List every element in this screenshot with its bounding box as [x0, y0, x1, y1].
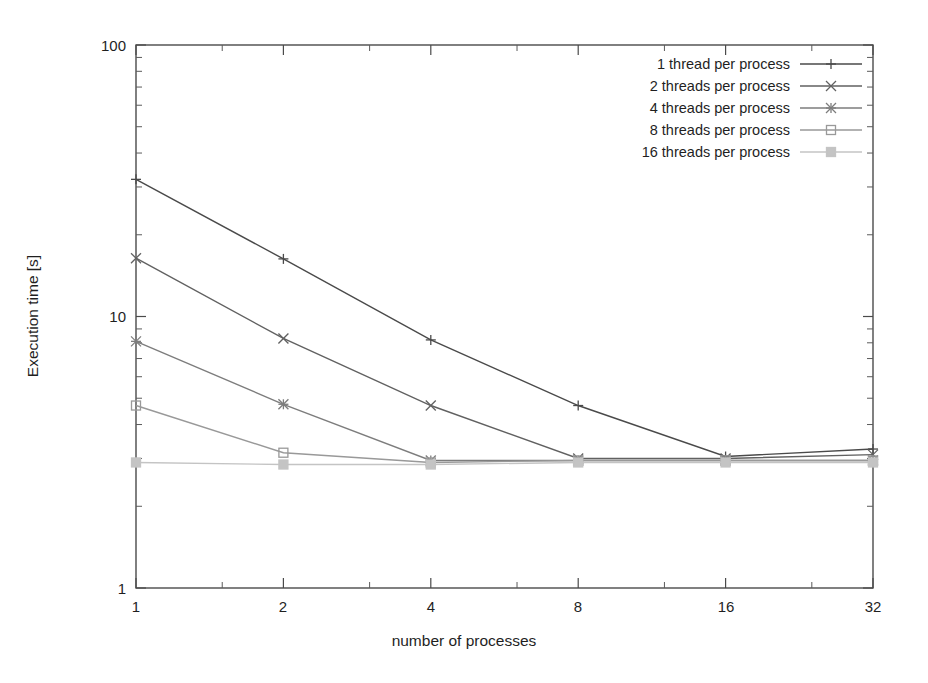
x-tick-label-2: 2 [279, 598, 287, 615]
y-tick-label-10: 10 [109, 308, 126, 325]
legend: 1 thread per process2 threads per proces… [642, 56, 862, 160]
data-point-0-1 [278, 254, 288, 264]
series-2 [131, 336, 878, 465]
data-point-4-1 [279, 460, 288, 469]
series-1 [131, 253, 878, 463]
legend-marker-2 [826, 103, 836, 113]
legend-marker-4 [827, 148, 836, 157]
data-point-4-4 [721, 458, 730, 467]
data-point-1-1 [278, 333, 288, 343]
data-point-4-3 [574, 458, 583, 467]
x-tick-label-1: 1 [132, 598, 140, 615]
legend-marker-0 [826, 59, 836, 69]
x-axis-title: number of processes [392, 632, 537, 649]
line-chart: 100 10 1 1 2 4 8 16 32 number of process… [0, 0, 928, 683]
x-tick-label-4: 4 [427, 598, 435, 615]
data-point-4-2 [426, 460, 435, 469]
series-0 [131, 174, 878, 461]
series-4 [132, 458, 878, 469]
legend-label-2: 4 threads per process [650, 100, 790, 116]
x-tick-label-32: 32 [865, 598, 882, 615]
chart-figure: 100 10 1 1 2 4 8 16 32 number of process… [0, 0, 928, 683]
data-point-0-2 [426, 335, 436, 345]
legend-label-3: 8 threads per process [650, 122, 790, 138]
x-tick-label-8: 8 [574, 598, 582, 615]
data-point-1-2 [426, 401, 436, 411]
legend-label-0: 1 thread per process [657, 56, 790, 72]
y-tick-label-100: 100 [101, 37, 126, 54]
x-tick-label-16: 16 [718, 598, 735, 615]
y-axis-title: Execution time [s] [24, 255, 41, 377]
data-series-group [131, 174, 878, 469]
data-point-0-5 [868, 444, 878, 454]
data-point-2-0 [131, 336, 141, 346]
legend-label-4: 16 threads per process [642, 144, 790, 160]
data-point-2-1 [278, 399, 288, 409]
data-point-0-3 [573, 401, 583, 411]
data-point-4-5 [869, 458, 878, 467]
y-tick-label-1: 1 [118, 580, 126, 597]
data-point-4-0 [132, 458, 141, 467]
data-point-0-0 [131, 174, 141, 184]
legend-label-1: 2 threads per process [650, 78, 790, 94]
